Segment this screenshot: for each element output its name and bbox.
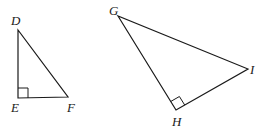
triangle-ghi — [118, 16, 248, 110]
vertex-label-i: I — [250, 63, 254, 76]
vertex-label-h: H — [172, 115, 181, 128]
vertex-label-e: E — [11, 101, 19, 114]
triangles-diagram — [0, 0, 262, 131]
vertex-label-f: F — [67, 101, 75, 114]
vertex-label-d: D — [11, 14, 20, 27]
right-angle-marker-e — [18, 88, 28, 98]
figure-canvas: D E F G H I — [0, 0, 262, 131]
vertex-label-g: G — [109, 4, 118, 17]
